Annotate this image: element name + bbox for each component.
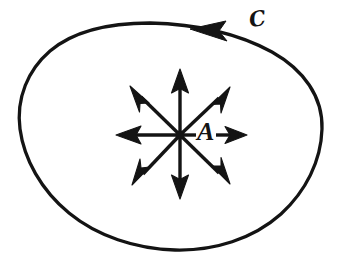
radial-starburst-group: [116, 69, 247, 199]
closed-curve-weight-overlay: [150, 23, 313, 92]
center-point-A: [175, 130, 184, 139]
curve-label-script-c: C: [247, 7, 267, 30]
arrow-up-left-head: [130, 86, 149, 112]
figure-canvas: A C: [0, 0, 344, 267]
diagram-svg: [0, 0, 344, 267]
point-label-A: A: [197, 119, 214, 145]
